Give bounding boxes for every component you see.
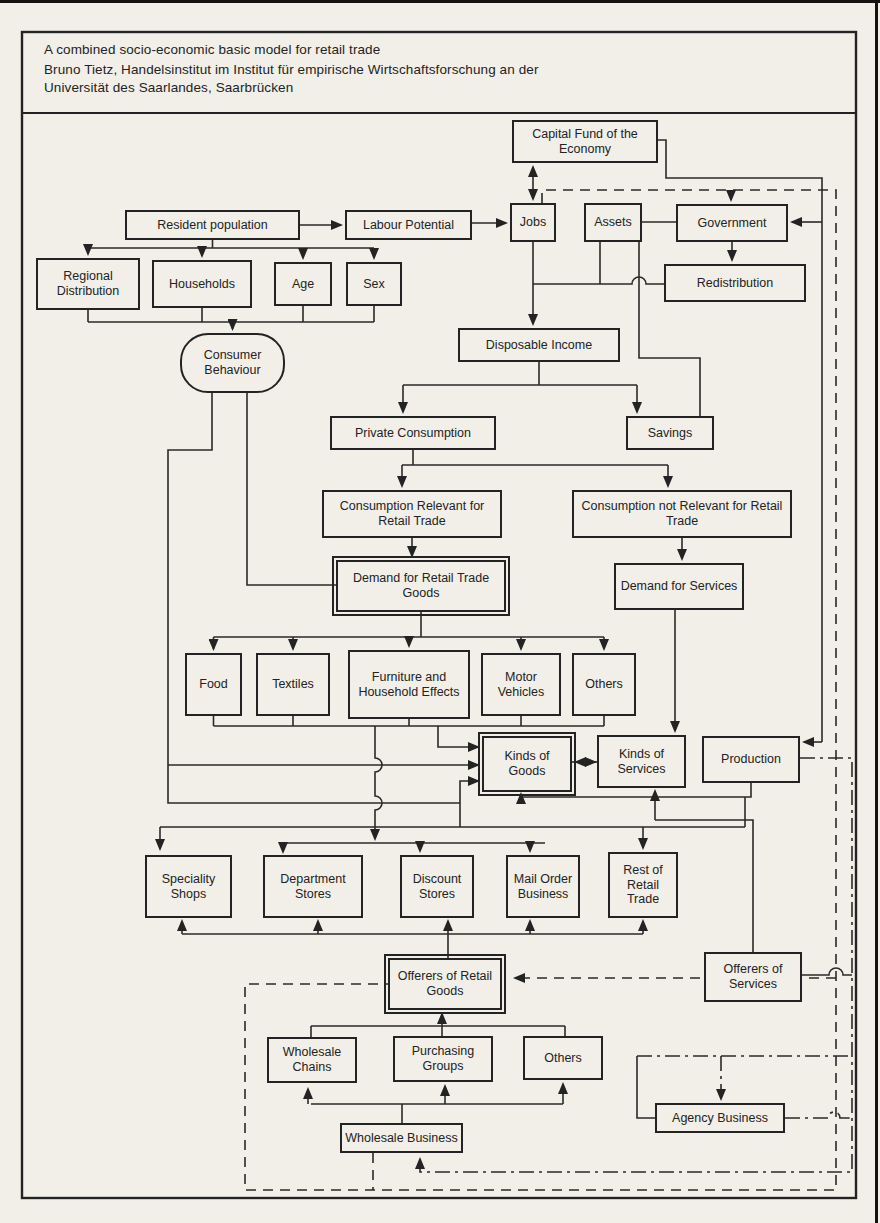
node-motor-vehicles: Motor Vehicles xyxy=(481,653,561,716)
node-disposable-income: Disposable Income xyxy=(458,328,620,362)
node-redistribution: Redistribution xyxy=(664,264,806,302)
node-kinds-of-services: Kinds of Services xyxy=(597,735,686,788)
node-offerers-services: Offerers of Services xyxy=(704,952,802,1002)
node-wholesale-business: Wholesale Business xyxy=(340,1123,463,1153)
node-savings: Savings xyxy=(626,416,714,450)
node-labour-potential: Labour Potential xyxy=(345,210,472,240)
node-private-consumption: Private Consumption xyxy=(330,416,496,450)
node-others-wholesale: Others xyxy=(523,1036,603,1080)
node-rest-of-retail-trade: Rest of Retail Trade xyxy=(608,852,678,918)
node-agency-business: Agency Business xyxy=(655,1103,785,1133)
node-resident-population: Resident population xyxy=(125,210,300,240)
author-line-1: Bruno Tietz, Handelsinstitut im Institut… xyxy=(44,62,539,77)
node-discount-stores: Discount Stores xyxy=(400,855,474,918)
node-speciality-shops: Speciality Shops xyxy=(145,855,232,918)
node-food: Food xyxy=(185,653,242,716)
node-kinds-of-goods: Kinds of Goods xyxy=(482,736,572,792)
node-government: Government xyxy=(676,204,788,242)
node-consumption-relevant: Consumption Relevant for Retail Trade xyxy=(322,490,502,538)
node-age: Age xyxy=(274,262,332,306)
scanned-diagram-page: A combined socio-economic basic model fo… xyxy=(0,0,880,1223)
page-title: A combined socio-economic basic model fo… xyxy=(44,42,380,57)
node-mail-order-business: Mail Order Business xyxy=(506,855,580,918)
node-offerers-retail-goods: Offerers of Retail Goods xyxy=(388,958,502,1010)
node-wholesale-chains: Wholesale Chains xyxy=(267,1037,357,1083)
node-households: Households xyxy=(152,260,252,308)
node-consumer-behaviour: Consumer Behaviour xyxy=(180,333,285,393)
node-regional-distribution: Regional Distribution xyxy=(36,258,140,310)
node-consumption-not-relevant: Consumption not Relevant for Retail Trad… xyxy=(572,490,792,538)
node-jobs: Jobs xyxy=(510,203,556,242)
node-others-goods: Others xyxy=(572,653,636,716)
node-sex: Sex xyxy=(346,262,402,306)
node-furniture-household: Furniture and Household Effects xyxy=(348,650,470,719)
node-demand-retail-goods: Demand for Retail Trade Goods xyxy=(336,560,506,612)
node-capital-fund: Capital Fund of the Economy xyxy=(512,120,658,163)
node-textiles: Textiles xyxy=(256,653,330,716)
author-line-2: Universität des Saarlandes, Saarbrücken xyxy=(44,80,293,95)
node-demand-services: Demand for Services xyxy=(614,563,744,610)
node-assets: Assets xyxy=(584,203,642,242)
node-department-stores: Department Stores xyxy=(263,855,363,918)
node-production: Production xyxy=(702,736,800,783)
node-purchasing-groups: Purchasing Groups xyxy=(393,1036,493,1082)
